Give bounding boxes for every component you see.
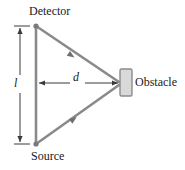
source-label: Source — [31, 150, 64, 162]
detector-vertex-dot — [33, 23, 38, 28]
detector-label: Detector — [29, 5, 70, 17]
length-symbol-label: l — [14, 77, 17, 89]
physics-diagram-figure: Detector Source Obstacle l d — [0, 0, 185, 170]
source-vertex-dot — [33, 141, 38, 146]
obstacle-label: Obstacle — [135, 76, 177, 88]
distance-symbol-label: d — [73, 71, 79, 83]
ray-source-to-obstacle — [36, 85, 119, 144]
obstacle-block — [120, 69, 132, 96]
